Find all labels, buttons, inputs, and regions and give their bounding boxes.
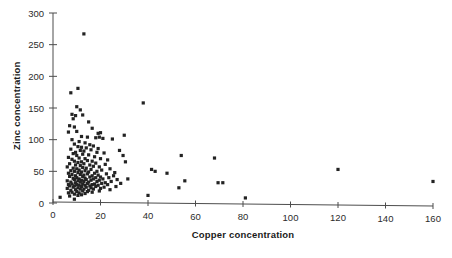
data-point (154, 170, 157, 173)
data-point (80, 146, 83, 149)
data-point (75, 105, 78, 108)
data-point (112, 174, 115, 177)
data-point (89, 148, 92, 151)
y-tick-label: 200 (28, 71, 44, 82)
data-point (86, 172, 89, 175)
data-point (66, 165, 69, 168)
data-point (104, 163, 107, 166)
x-axis-title: Copper concentration (192, 229, 295, 240)
data-point (126, 177, 129, 180)
data-point (73, 170, 76, 173)
data-point (100, 182, 103, 185)
data-point (72, 117, 75, 120)
x-axis-group: 020406080100120140160 Copper concentrati… (50, 199, 441, 240)
data-point (78, 156, 81, 159)
data-point (86, 136, 89, 139)
data-point (93, 155, 96, 158)
data-point (94, 162, 97, 165)
data-point (79, 149, 82, 152)
x-tick-label: 80 (238, 211, 249, 222)
data-point (108, 167, 111, 170)
data-point (80, 135, 83, 138)
data-point (97, 147, 100, 150)
data-point (150, 168, 153, 171)
data-point (82, 32, 85, 35)
data-point (83, 192, 86, 195)
x-tick-label: 60 (190, 211, 201, 222)
data-point (165, 172, 168, 175)
data-point (98, 165, 101, 168)
data-point (74, 163, 77, 166)
data-point (76, 87, 79, 90)
y-tick-label: 50 (33, 166, 44, 177)
x-tick-label: 100 (283, 212, 299, 223)
data-point (70, 113, 73, 116)
data-point (100, 168, 103, 171)
data-point (123, 134, 126, 137)
data-point (87, 120, 90, 123)
data-point (69, 148, 72, 151)
data-point (68, 162, 71, 165)
scatter-plot-svg: 050100150200250300 Zinc concentration 02… (0, 0, 452, 258)
data-point (67, 130, 70, 133)
data-point (98, 136, 101, 139)
data-point (70, 138, 73, 141)
data-point (107, 176, 110, 179)
data-point (68, 175, 71, 178)
y-tick-label: 300 (28, 8, 44, 19)
data-point (431, 180, 434, 183)
data-point (74, 114, 77, 117)
data-point (183, 179, 186, 182)
data-point (110, 180, 113, 183)
data-point (216, 181, 219, 184)
data-point (67, 156, 70, 159)
data-point (91, 160, 94, 163)
data-point (81, 153, 84, 156)
data-point (73, 178, 76, 181)
data-point (76, 145, 79, 148)
data-point (92, 187, 95, 190)
y-tick-label: 250 (28, 39, 44, 50)
data-point (88, 175, 91, 178)
data-point (118, 149, 121, 152)
x-tick-label: 120 (330, 212, 346, 223)
data-point (87, 153, 90, 156)
data-point (91, 127, 94, 130)
data-point (73, 143, 76, 146)
data-point (68, 194, 71, 197)
data-point (142, 101, 145, 104)
data-point (177, 186, 180, 189)
data-point (98, 189, 101, 192)
data-point (88, 163, 91, 166)
y-tick-label: 0 (39, 198, 44, 209)
data-point (78, 140, 81, 143)
x-tick-label: 20 (95, 210, 106, 221)
data-point (106, 183, 109, 186)
data-point (113, 171, 116, 174)
data-point (59, 196, 62, 199)
data-point (88, 143, 91, 146)
data-point (92, 144, 95, 147)
data-point (99, 131, 102, 134)
data-point (69, 91, 72, 94)
data-point (180, 154, 183, 157)
data-point (221, 181, 224, 184)
data-point (82, 149, 85, 152)
x-tick-label: 40 (143, 210, 154, 221)
data-point (66, 187, 69, 190)
data-point (72, 152, 75, 155)
data-point (67, 172, 70, 175)
data-point (80, 193, 83, 196)
data-point (121, 154, 124, 157)
data-point-layer (59, 32, 435, 201)
data-point (101, 137, 104, 140)
data-point (146, 194, 149, 197)
data-point (336, 168, 339, 171)
data-point (108, 188, 111, 191)
data-point (75, 130, 78, 133)
data-point (111, 137, 114, 140)
data-point (106, 158, 109, 161)
data-point (67, 191, 70, 194)
data-point (213, 156, 216, 159)
data-point (76, 194, 79, 197)
